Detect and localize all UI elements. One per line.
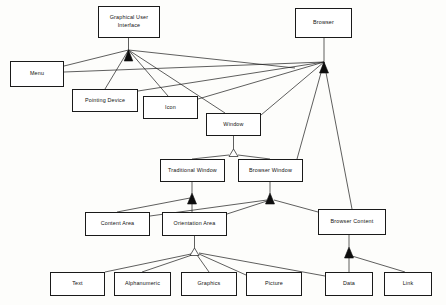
edge-browser-to-gui	[129, 50, 296, 68]
edge-window-to-browser	[261, 62, 324, 115]
node-browser-window[interactable]: Browser Window	[238, 159, 303, 182]
edge-browsercontent-to-browser	[324, 62, 352, 209]
edge-icon-to-browser	[198, 62, 324, 99]
node-label: Browser	[311, 19, 336, 27]
node-picture[interactable]: Picture	[246, 272, 302, 296]
edge-browserwindow-to-browser	[297, 62, 324, 159]
diagram-edges-layer	[0, 0, 446, 305]
edge-pointingdev-to-browser	[138, 62, 324, 91]
node-browser-content[interactable]: Browser Content	[318, 209, 386, 235]
node-text[interactable]: Text	[50, 272, 105, 296]
edge-group-browser-window	[150, 182, 318, 216]
node-graphical-user-interface[interactable]: Graphical User Interface	[98, 6, 160, 38]
node-graphics[interactable]: Graphics	[181, 272, 237, 296]
node-label: Text	[70, 280, 85, 288]
node-label: Picture	[263, 280, 285, 288]
edge-alphanumeric-to-orientationarea	[142, 255, 192, 272]
node-label: Icon	[163, 104, 178, 112]
node-pointing-device[interactable]: Pointing Device	[72, 89, 138, 112]
node-label: Orientation Area	[172, 220, 218, 228]
node-browser[interactable]: Browser	[295, 8, 352, 38]
edge-group-browser-content	[349, 235, 405, 272]
node-alphanumeric[interactable]: Alphanumeric	[114, 272, 171, 296]
edge-link-to-browsercontent	[352, 256, 405, 272]
uml-class-diagram: Graphical User Interface Browser Menu Po…	[0, 0, 446, 305]
node-orientation-area[interactable]: Orientation Area	[162, 212, 227, 236]
generalization-arrow-window	[229, 149, 238, 157]
node-window[interactable]: Window	[206, 113, 261, 136]
node-label: Alphanumeric	[123, 280, 162, 288]
node-menu[interactable]: Menu	[10, 61, 64, 87]
node-link[interactable]: Link	[384, 272, 432, 296]
node-icon[interactable]: Icon	[143, 96, 198, 119]
node-label: Window	[221, 121, 245, 129]
edge-menu-to-gui	[64, 50, 129, 66]
edge-text-to-orientationarea	[105, 254, 191, 272]
generalization-arrow-orientation-area	[190, 248, 199, 256]
node-traditional-window[interactable]: Traditional Window	[160, 159, 225, 182]
generalization-arrow-browser-content	[345, 247, 354, 258]
edge-group-orientation-area	[105, 236, 325, 276]
edge-contentarea-to-tradwindow	[117, 198, 190, 212]
node-label: Link	[401, 280, 416, 288]
node-label: Traditional Window	[166, 167, 219, 175]
node-label: Data	[341, 280, 357, 288]
node-content-area[interactable]: Content Area	[85, 212, 150, 236]
node-label: Graphical User Interface	[108, 14, 150, 30]
node-label: Pointing Device	[83, 97, 127, 105]
node-data[interactable]: Data	[325, 272, 373, 296]
node-label: Graphics	[195, 280, 222, 288]
edge-browsercontent-to-browserwindow	[274, 200, 318, 212]
node-label: Browser Window	[247, 167, 294, 175]
node-label: Browser Content	[329, 218, 376, 226]
generalization-arrow-browser-window	[266, 193, 275, 204]
generalization-arrow-browser	[320, 62, 329, 73]
edge-group-traditional-window	[117, 182, 192, 212]
node-label: Content Area	[99, 220, 137, 228]
node-label: Menu	[28, 70, 46, 78]
